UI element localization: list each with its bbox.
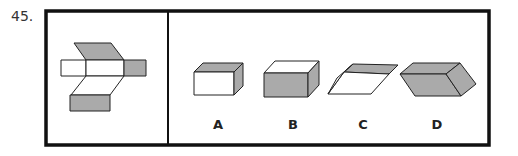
question-figure [0,0,518,156]
box-net [61,43,146,111]
option-c-label[interactable]: C [353,117,373,132]
option-d-figure [400,63,476,96]
option-c-figure [328,64,398,94]
option-b-figure [264,61,319,97]
option-a-label[interactable]: A [208,117,228,132]
option-d-label[interactable]: D [427,117,447,132]
option-a-figure [194,63,243,95]
option-b-label[interactable]: B [283,117,303,132]
